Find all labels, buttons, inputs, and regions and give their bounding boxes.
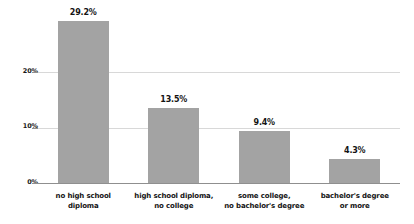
- y-axis-tick-mark: [32, 183, 38, 184]
- category-label-line: no college: [129, 201, 220, 211]
- y-axis-tick-label: 10%: [12, 123, 38, 130]
- category-label-1: high school diploma,no college: [129, 191, 220, 211]
- y-axis-tick-0: 0%: [0, 179, 38, 189]
- bar-chart: 0%10%20% 29.2%13.5%9.4%4.3% no high scho…: [0, 0, 414, 224]
- category-label-2: some college,no bachelor's degree: [219, 191, 310, 211]
- category-label-3: bachelor's degreeor more: [310, 191, 401, 211]
- axis-baseline: [38, 183, 400, 184]
- category-label-line: no high school: [38, 191, 129, 201]
- bar-2[interactable]: [239, 131, 290, 183]
- y-axis-tick-mark: [32, 72, 38, 73]
- y-axis-tick-label: 20%: [12, 68, 38, 75]
- category-label-line: or more: [310, 201, 401, 211]
- bar-0[interactable]: [58, 21, 109, 183]
- category-label-line: no bachelor's degree: [219, 201, 310, 211]
- bar-value-label-2: 9.4%: [219, 119, 310, 127]
- y-axis-tick-mark: [32, 128, 38, 129]
- category-label-line: bachelor's degree: [310, 191, 401, 201]
- category-label-0: no high schooldiploma: [38, 191, 129, 211]
- bar-value-label-3: 4.3%: [310, 147, 401, 155]
- bar-1[interactable]: [148, 108, 199, 183]
- category-label-line: diploma: [38, 201, 129, 211]
- plot-area: 0%10%20% 29.2%13.5%9.4%4.3% no high scho…: [0, 0, 414, 224]
- category-label-line: some college,: [219, 191, 310, 201]
- y-axis-tick-2: 20%: [0, 68, 38, 78]
- bar-value-label-1: 13.5%: [129, 96, 220, 104]
- y-axis-tick-label: 0%: [12, 179, 38, 186]
- bar-value-label-0: 29.2%: [38, 9, 129, 17]
- category-label-line: high school diploma,: [129, 191, 220, 201]
- bar-3[interactable]: [329, 159, 380, 183]
- y-axis-tick-1: 10%: [0, 123, 38, 133]
